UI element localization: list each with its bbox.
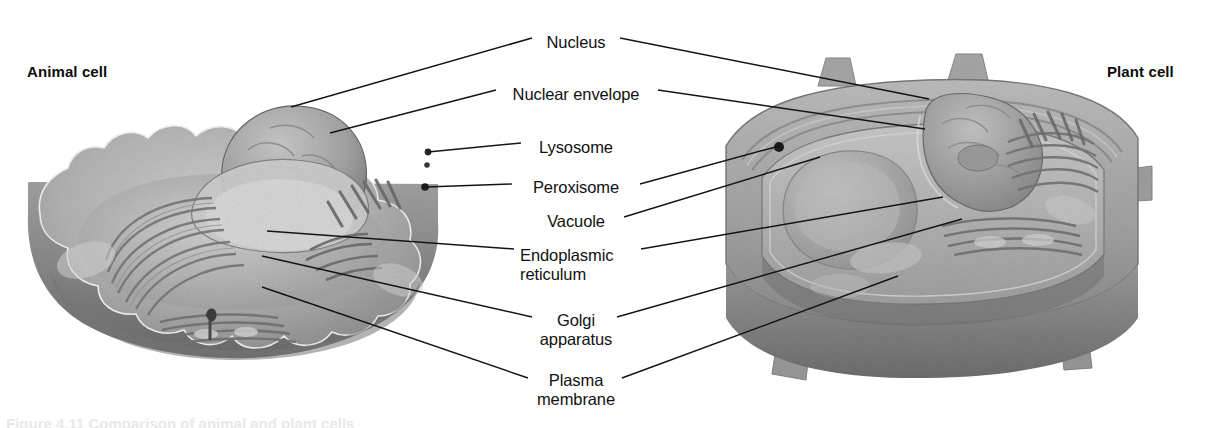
- label-nucleus: Nucleus: [547, 33, 606, 52]
- plant-cell-illustration: [690, 50, 1160, 395]
- cell-comparison-figure: Animal cell Plant cell Nucleus Nuclear e…: [0, 0, 1208, 428]
- label-endoplasmic-reticulum: Endoplasmic reticulum: [520, 246, 613, 284]
- label-golgi-apparatus: Golgi apparatus: [540, 311, 613, 349]
- label-vacuole: Vacuole: [547, 212, 605, 231]
- figure-caption-remnant: Figure 4.11 Comparison of animal and pla…: [6, 415, 354, 428]
- plant-cell-heading: Plant cell: [1107, 63, 1174, 80]
- animal-cell-illustration: [10, 64, 460, 394]
- label-nuclear-envelope-text: Nuclear envelope: [513, 85, 640, 103]
- animal-cell-heading: Animal cell: [27, 63, 107, 80]
- label-nuclear-envelope: Nuclear envelope: [513, 85, 640, 104]
- label-peroxisome: Peroxisome: [533, 178, 619, 197]
- label-endoplasmic-reticulum-line1: Endoplasmic: [520, 246, 613, 264]
- label-nucleus-text: Nucleus: [547, 33, 606, 51]
- label-lysosome-text: Lysosome: [539, 138, 613, 156]
- label-endoplasmic-reticulum-line2: reticulum: [520, 265, 613, 284]
- label-plasma-membrane: Plasma membrane: [537, 371, 615, 409]
- label-plasma-membrane-line2: membrane: [537, 390, 615, 409]
- label-golgi-apparatus-line1: Golgi: [557, 311, 595, 329]
- label-lysosome: Lysosome: [539, 138, 613, 157]
- label-peroxisome-text: Peroxisome: [533, 178, 619, 196]
- label-vacuole-text: Vacuole: [547, 212, 605, 230]
- label-plasma-membrane-line1: Plasma: [549, 371, 603, 389]
- label-golgi-apparatus-line2: apparatus: [540, 330, 613, 349]
